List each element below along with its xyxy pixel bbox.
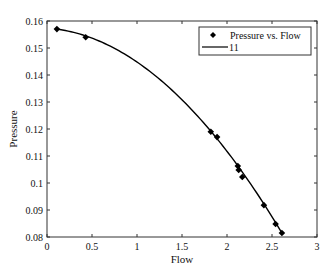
y-tick-label: 0.14 <box>26 70 44 81</box>
y-tick-label: 0.12 <box>26 124 44 135</box>
y-axis-label: Pressure <box>7 110 19 147</box>
y-tick-label: 0.13 <box>26 97 44 108</box>
x-tick-label: 1 <box>135 241 140 252</box>
y-tick-label: 0.11 <box>26 151 43 162</box>
y-tick-label: 0.16 <box>26 16 44 27</box>
chart: 00.511.522.53 0.080.090.10.110.120.130.1… <box>0 0 333 276</box>
y-tick-label: 0.09 <box>26 205 44 216</box>
x-tick-label: 1.5 <box>176 241 189 252</box>
data-point-diamond-icon <box>54 26 61 33</box>
legend-label-scatter: Pressure vs. Flow <box>230 30 302 41</box>
legend: Pressure vs. Flow 11 <box>199 27 311 55</box>
y-tick-label: 0.08 <box>26 232 44 243</box>
x-tick-label: 2 <box>225 241 230 252</box>
y-tick-label: 0.15 <box>26 43 44 54</box>
x-tick-label: 0.5 <box>86 241 99 252</box>
data-point-diamond-icon <box>279 230 286 237</box>
x-tick-label: 2.5 <box>266 241 279 252</box>
x-axis-ticks: 00.511.522.53 <box>45 21 320 252</box>
y-tick-label: 0.1 <box>31 178 44 189</box>
x-tick-label: 3 <box>315 241 320 252</box>
data-markers <box>54 26 286 236</box>
data-point-diamond-icon <box>214 134 221 141</box>
fit-curve <box>57 29 282 233</box>
legend-label-fit: 11 <box>229 42 239 53</box>
x-tick-label: 0 <box>45 241 50 252</box>
x-axis-label: Flow <box>171 253 194 265</box>
